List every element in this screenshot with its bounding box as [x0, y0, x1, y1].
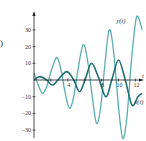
- plot-area: [34, 16, 142, 139]
- axis-labels: 302010−10−20−30481012ty(t)x(t): [22, 17, 144, 133]
- chart: ) 302010−10−20−30481012ty(t)x(t): [0, 0, 146, 141]
- series-line-yt: [34, 16, 142, 139]
- y-tick-label: 30: [25, 27, 31, 33]
- y-tick-label: 20: [25, 44, 31, 50]
- series-label-y: y(t): [115, 17, 125, 25]
- x-axis-label: t: [142, 72, 144, 79]
- x-tick-label: 10: [117, 82, 123, 88]
- y-axis-arrow-icon: [32, 11, 35, 16]
- series-label-x: x(t): [133, 98, 143, 106]
- y-tick-label: −20: [22, 110, 31, 116]
- y-tick-label: −30: [22, 127, 31, 133]
- y-tick-label: −10: [22, 94, 31, 100]
- panel-label: ): [0, 38, 3, 48]
- x-tick-label: 4: [67, 82, 70, 88]
- y-tick-label: 10: [25, 60, 31, 66]
- x-tick-label: 8: [101, 82, 104, 88]
- x-tick-label: 12: [133, 82, 139, 88]
